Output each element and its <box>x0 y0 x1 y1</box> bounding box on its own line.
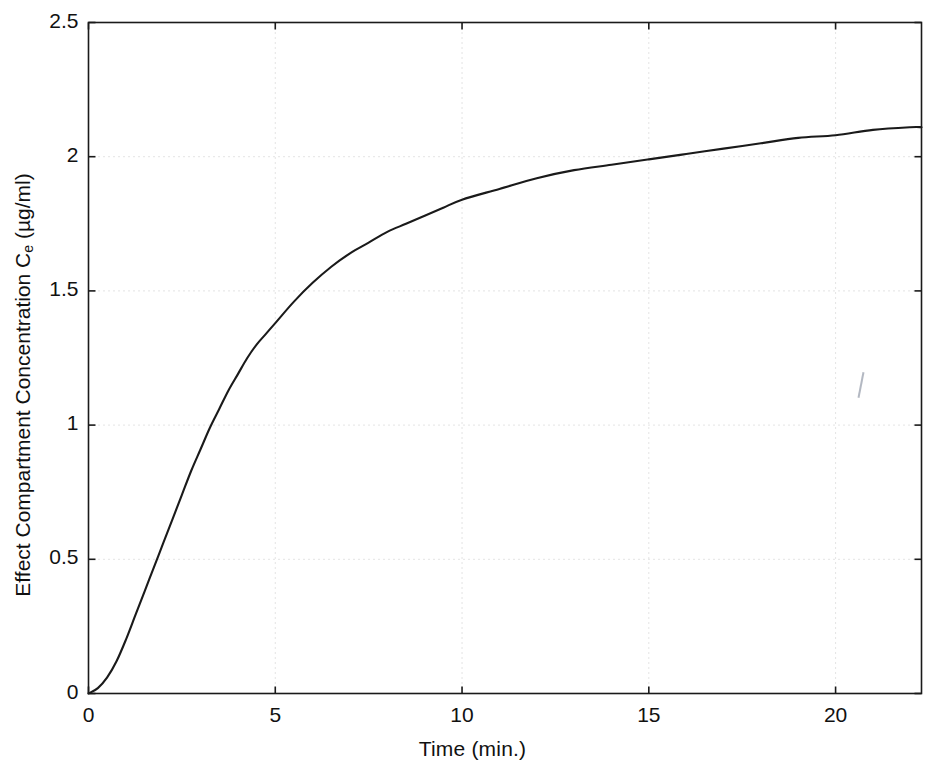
y-tick-label: 0.5 <box>49 545 78 569</box>
plot-frame <box>89 23 922 694</box>
x-axis-label: Time (min.) <box>0 737 945 761</box>
y-tick-label: 2.5 <box>49 9 78 33</box>
chart-figure: 00.511.522.5 05101520 Effect Compartment… <box>0 0 945 770</box>
axis-ticks <box>89 23 922 694</box>
y-axis-label: Effect Compartment Concentration Ce (µg/… <box>11 173 36 596</box>
y-axis-label-suffix: (µg/ml) <box>11 173 34 245</box>
x-tick-label: 15 <box>619 703 679 727</box>
x-tick-label: 10 <box>432 703 492 727</box>
y-tick-label: 1 <box>67 411 79 435</box>
y-axis-label-prefix: Effect Compartment Concentration C <box>11 253 34 597</box>
line-chart-plot <box>0 0 945 770</box>
grid-lines <box>89 23 922 694</box>
x-tick-label: 0 <box>59 703 119 727</box>
x-tick-label: 20 <box>806 703 866 727</box>
y-axis-label-container: Effect Compartment Concentration Ce (µg/… <box>0 0 46 770</box>
x-tick-label: 5 <box>245 703 305 727</box>
y-axis-label-subscript: e <box>20 245 36 253</box>
y-tick-label: 1.5 <box>49 277 78 301</box>
data-curve-line <box>89 127 922 694</box>
axes-box <box>89 23 922 694</box>
y-tick-label: 0 <box>67 680 79 704</box>
y-tick-label: 2 <box>67 143 79 167</box>
